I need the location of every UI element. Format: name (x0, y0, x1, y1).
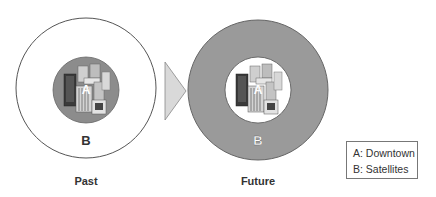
future-satellites-label: B (253, 133, 262, 148)
future-caption: Future (241, 175, 275, 187)
past-downtown-label: A (82, 83, 91, 97)
future-diagram: A B Future (188, 20, 328, 187)
legend-box: A: Downtown B: Satellites (346, 141, 418, 179)
transition-arrow-icon (165, 62, 186, 120)
past-diagram: A B Past (16, 18, 156, 187)
legend-item-satellites: B: Satellites (353, 161, 417, 177)
past-caption: Past (74, 175, 98, 187)
past-satellites-label: B (81, 133, 90, 148)
future-downtown-label: A (254, 83, 263, 97)
legend-item-downtown: A: Downtown (353, 145, 417, 161)
